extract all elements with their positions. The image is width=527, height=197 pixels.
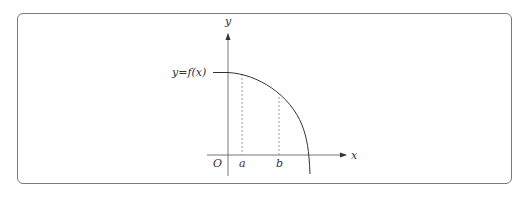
curve-label: y=f(x) <box>171 66 206 79</box>
x-axis-label: x <box>351 149 358 162</box>
origin-label: O <box>213 157 222 170</box>
y-axis-label: y <box>224 15 232 28</box>
marker-a-label: a <box>239 157 246 170</box>
marker-b-label: b <box>276 157 283 170</box>
function-graph: y x O a b y=f(x) <box>0 0 527 197</box>
